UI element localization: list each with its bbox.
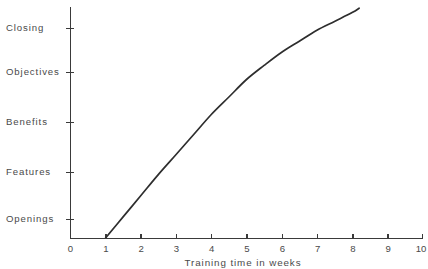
y-axis-tick-labels: Closing Objectives Benefits Features Ope…: [6, 22, 60, 224]
y-tick-label-closing: Closing: [6, 22, 44, 33]
y-tick-label-objectives: Objectives: [6, 66, 60, 77]
x-tick-label-2: 2: [138, 243, 143, 254]
x-tick-label-7: 7: [315, 243, 320, 254]
x-tick-label-5: 5: [244, 243, 249, 254]
x-tick-label-0: 0: [68, 243, 73, 254]
chart-screenshot: Closing Objectives Benefits Features Ope…: [0, 0, 428, 269]
x-tick-label-10: 10: [416, 243, 427, 254]
data-series-line: [106, 8, 359, 238]
x-tick-label-3: 3: [174, 243, 179, 254]
x-tick-label-4: 4: [209, 243, 215, 254]
y-tick-label-openings: Openings: [6, 213, 54, 224]
x-axis-tick-labels: 0 1 2 3 4 5 6 7 8 9 10: [68, 243, 427, 254]
x-tick-label-6: 6: [280, 243, 285, 254]
x-tick-label-1: 1: [103, 243, 108, 254]
x-tick-label-9: 9: [386, 243, 391, 254]
x-axis-title: Training time in weeks: [185, 257, 302, 268]
y-tick-label-features: Features: [6, 166, 51, 177]
y-tick-label-benefits: Benefits: [6, 116, 48, 127]
chart-plot-area: Closing Objectives Benefits Features Ope…: [0, 0, 428, 269]
x-tick-label-8: 8: [350, 243, 355, 254]
